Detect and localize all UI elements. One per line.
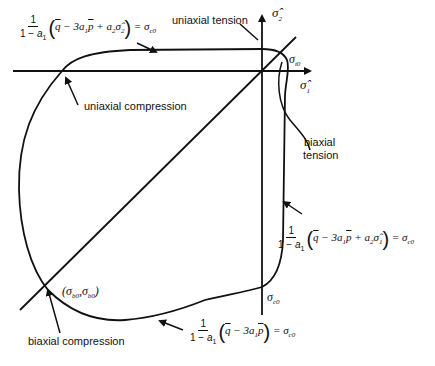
sigma1-axis-label: σ̂1	[300, 78, 310, 95]
sigma-t0-label: σt0	[289, 53, 300, 68]
uniaxial-tension-label: uniaxial tension	[172, 15, 248, 26]
right-equation-expression: q − 3a1p + a2σ̂1	[313, 231, 382, 246]
bottom-equation: 11 − a1 ( q − 3a1p ) = σc0	[190, 318, 295, 345]
sigma2-axis-label: σ̂2	[272, 6, 282, 23]
right-equation-pointer	[284, 202, 302, 214]
uniaxial-tension-pointer	[240, 24, 258, 40]
sigma-c0-label: σc0	[267, 291, 280, 306]
yield-surface-curve	[19, 49, 288, 320]
biaxial-compression-label: biaxial compression	[28, 336, 125, 347]
yield-surface-diagram	[0, 0, 435, 366]
biaxial-tension-label-2: tension	[303, 150, 338, 161]
biaxial-tension-label-1: biaxial	[304, 137, 335, 148]
uniaxial-compression-pointer	[66, 78, 78, 105]
uniaxial-compression-label: uniaxial compression	[84, 101, 187, 112]
bottom-equation-expression: q − 3a1p	[225, 324, 263, 339]
right-equation: 11 − a1 ( q − 3a1p + a2σ̂1 ) = σc0	[278, 225, 414, 252]
top-equation: 11 − a1 ( q − 3a1p + a2σ̂2 ) = σc0	[20, 14, 156, 41]
diagonal-line	[20, 37, 296, 310]
bottom-equation-pointer	[160, 321, 183, 330]
top-equation-expression: q − 3a1p + a2σ̂2	[55, 20, 124, 35]
sigma-b0-label: (σb0,σb0)	[62, 285, 99, 300]
